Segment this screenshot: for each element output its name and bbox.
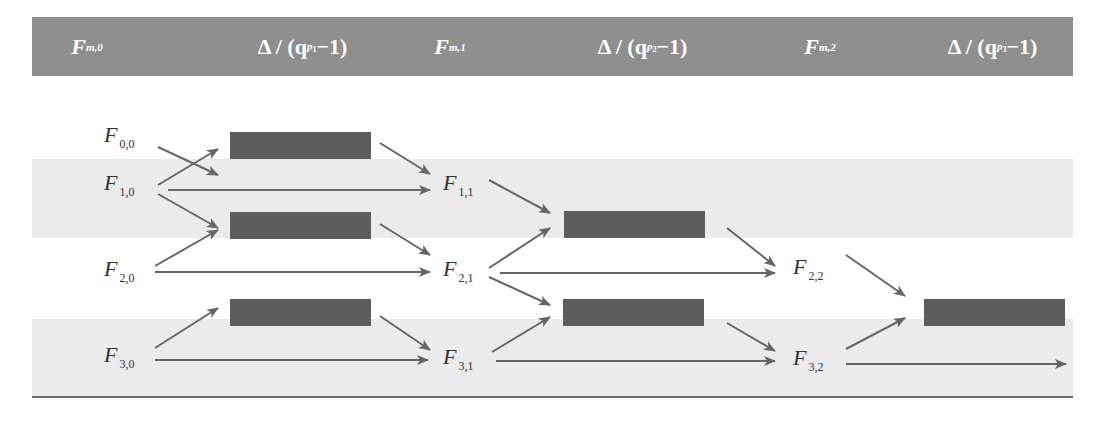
node-F11: F1,1 — [443, 172, 473, 198]
node-F31: F3,1 — [443, 346, 473, 372]
node-F22: F2,2 — [793, 256, 823, 282]
node-subscript: 2,2 — [808, 269, 823, 283]
node-F10: F1,0 — [104, 172, 134, 198]
arrow-F11-box2a — [489, 180, 550, 213]
arrow-F31-box2b — [492, 317, 550, 352]
node-symbol: F — [104, 122, 117, 147]
arrow-F21-box2a — [489, 228, 550, 268]
arrow-F10-box1b — [158, 194, 218, 228]
arrow-F10-box1a — [158, 149, 218, 185]
node-subscript: 1,0 — [119, 185, 134, 199]
node-symbol: F — [793, 345, 806, 370]
arrow-F32-box3a — [846, 318, 905, 349]
arrow-F00-box1a — [158, 147, 218, 175]
node-symbol: F — [793, 254, 806, 279]
node-symbol: F — [443, 256, 456, 281]
arrow-box1b-F21 — [380, 224, 430, 255]
node-F21: F2,1 — [443, 258, 473, 284]
arrow-box1a-F11 — [380, 143, 430, 174]
node-symbol: F — [104, 170, 117, 195]
node-symbol: F — [443, 170, 456, 195]
arrow-box1c-F31 — [380, 316, 430, 350]
node-subscript: 0,0 — [119, 137, 134, 151]
node-subscript: 1,1 — [458, 185, 473, 199]
arrow-F22-box3a — [846, 255, 905, 296]
arrow-F21-box2b — [489, 277, 550, 305]
arrows-layer — [0, 0, 1098, 426]
node-F20: F2,0 — [104, 258, 134, 284]
arrow-box2a-F22 — [727, 228, 775, 266]
node-subscript: 2,1 — [458, 271, 473, 285]
node-symbol: F — [104, 342, 117, 367]
node-subscript: 3,1 — [458, 359, 473, 373]
arrow-box2b-F32 — [727, 323, 775, 351]
node-F32: F3,2 — [793, 347, 823, 373]
node-subscript: 2,0 — [119, 271, 134, 285]
node-F30: F3,0 — [104, 344, 134, 370]
node-subscript: 3,0 — [119, 357, 134, 371]
node-symbol: F — [104, 256, 117, 281]
arrow-F30-box1c — [155, 308, 218, 348]
node-subscript: 3,2 — [808, 360, 823, 374]
node-F00: F0,0 — [104, 124, 134, 150]
node-symbol: F — [443, 344, 456, 369]
arrow-F20-box1b — [155, 230, 218, 266]
